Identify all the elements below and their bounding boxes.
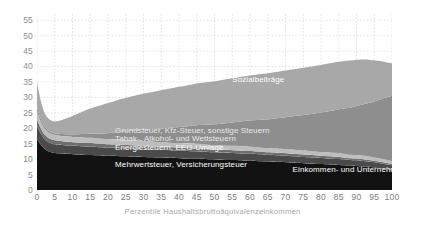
- y-tick-label: 20: [3, 123, 33, 133]
- x-tick-label: 20: [103, 192, 113, 202]
- x-tick-label: 30: [139, 192, 149, 202]
- x-tick-label: 100: [385, 192, 400, 202]
- series-annotation: Einkommen- und Unternehmensteuern: [293, 165, 425, 174]
- y-tick-label: 50: [3, 31, 33, 41]
- y-tick-label: 15: [3, 139, 33, 149]
- x-tick-label: 85: [334, 192, 344, 202]
- series-annotation: Tabak-, Alkohol- und Wettsteuern: [115, 134, 236, 143]
- x-tick-label: 75: [298, 192, 308, 202]
- x-tick-label: 10: [68, 192, 78, 202]
- x-axis-title: Perzentile Haushaltsbruttoäquivalenzeink…: [0, 207, 425, 216]
- y-tick-label: 0: [3, 185, 33, 195]
- series-annotation: Mehrwertsteuer, Versicherungsteuer: [115, 160, 247, 169]
- x-tick-label: 0: [35, 192, 40, 202]
- y-tick-label: 40: [3, 61, 33, 71]
- y-tick-label: 5: [3, 170, 33, 180]
- y-axis: 0510152025303540455055: [0, 14, 33, 190]
- x-tick-label: 15: [85, 192, 95, 202]
- x-tick-label: 45: [192, 192, 202, 202]
- stacked-area-chart: 0510152025303540455055 05101520253035404…: [0, 0, 425, 229]
- x-tick-label: 35: [156, 192, 166, 202]
- y-tick-label: 10: [3, 154, 33, 164]
- x-tick-label: 90: [352, 192, 362, 202]
- series-annotation: Grundsteuer, Kfz-Steuer, sonstige Steuer…: [115, 126, 269, 135]
- x-tick-label: 60: [245, 192, 255, 202]
- x-tick-label: 25: [121, 192, 131, 202]
- x-tick-label: 95: [369, 192, 379, 202]
- x-tick-label: 40: [174, 192, 184, 202]
- x-tick-label: 5: [52, 192, 57, 202]
- x-tick-label: 80: [316, 192, 326, 202]
- y-tick-label: 35: [3, 77, 33, 87]
- y-tick-label: 45: [3, 46, 33, 56]
- x-tick-label: 65: [263, 192, 273, 202]
- y-tick-label: 25: [3, 108, 33, 118]
- x-axis: 0510152025303540455055606570758085909510…: [37, 191, 392, 205]
- x-tick-label: 50: [210, 192, 220, 202]
- y-tick-label: 30: [3, 92, 33, 102]
- x-tick-label: 55: [227, 192, 237, 202]
- series-annotation: Energiesteuern, EEG-Umlage: [115, 143, 223, 152]
- series-annotation: Sozialbeiträge: [232, 75, 284, 84]
- y-tick-label: 55: [3, 15, 33, 25]
- x-tick-label: 70: [281, 192, 291, 202]
